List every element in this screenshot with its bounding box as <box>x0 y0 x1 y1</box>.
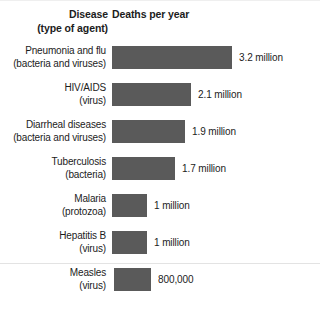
bar <box>114 268 151 291</box>
column-header-disease: Disease (type of agent) <box>0 8 108 35</box>
bar-value-label: 1.7 million <box>182 163 226 175</box>
disease-agent-type: (bacteria) <box>0 169 106 182</box>
disease-name: HIV/AIDS <box>0 82 106 95</box>
table-row: Tuberculosis(bacteria)1.7 million <box>0 156 320 193</box>
disease-label: Pneumonia and flu(bacteria and viruses) <box>0 45 106 70</box>
chart-header: Disease (type of agent) Deaths per year <box>0 8 320 42</box>
column-header-deaths-line1: Deaths per year <box>112 8 312 22</box>
bar <box>112 194 147 217</box>
disease-label: Malaria(protozoa) <box>0 193 106 218</box>
bar-value-label: 3.2 million <box>239 52 283 64</box>
top-edge-rule <box>0 0 320 1</box>
bar-value-label: 1.9 million <box>192 126 236 138</box>
disease-label: Measles(virus) <box>0 267 106 292</box>
bar-value-label: 1 million <box>154 237 190 249</box>
table-row: HIV/AIDS(virus)2.1 million <box>0 82 320 119</box>
disease-deaths-bar-chart: Disease (type of agent) Deaths per year … <box>0 0 320 313</box>
bar-and-value: 1 million <box>112 231 190 254</box>
section-divider-rule <box>0 263 320 264</box>
disease-agent-type: (protozoa) <box>0 206 106 219</box>
disease-name: Malaria <box>0 193 106 206</box>
disease-label: Hepatitis B(virus) <box>0 230 106 255</box>
bar <box>112 231 147 254</box>
bar <box>112 120 185 143</box>
bar-and-value: 2.1 million <box>112 83 242 106</box>
disease-agent-type: (bacteria and viruses) <box>0 58 106 71</box>
bar-and-value: 800,000 <box>114 268 193 291</box>
disease-label: HIV/AIDS(virus) <box>0 82 106 107</box>
disease-name: Measles <box>0 267 106 280</box>
disease-label: Diarrheal diseases(bacteria and viruses) <box>0 119 106 144</box>
table-row: Pneumonia and flu(bacteria and viruses)3… <box>0 45 320 82</box>
column-header-deaths: Deaths per year <box>112 8 312 22</box>
disease-agent-type: (virus) <box>0 243 106 256</box>
bar <box>112 83 191 106</box>
bar <box>112 46 232 69</box>
table-row: Malaria(protozoa)1 million <box>0 193 320 230</box>
disease-name: Tuberculosis <box>0 156 106 169</box>
bar-and-value: 1.9 million <box>112 120 236 143</box>
column-header-disease-line2: (type of agent) <box>0 22 108 36</box>
bar-rows: Pneumonia and flu(bacteria and viruses)3… <box>0 45 320 304</box>
disease-agent-type: (virus) <box>0 280 106 293</box>
bar-value-label: 2.1 million <box>198 89 242 101</box>
table-row: Hepatitis B(virus)1 million <box>0 230 320 267</box>
disease-agent-type: (virus) <box>0 95 106 108</box>
table-row: Measles(virus)800,000 <box>0 267 320 304</box>
disease-agent-type: (bacteria and viruses) <box>0 132 106 145</box>
column-header-disease-line1: Disease <box>0 8 108 22</box>
bar-and-value: 1 million <box>112 194 190 217</box>
disease-name: Pneumonia and flu <box>0 45 106 58</box>
bar-value-label: 1 million <box>154 200 190 212</box>
disease-name: Hepatitis B <box>0 230 106 243</box>
bar-and-value: 3.2 million <box>112 46 283 69</box>
bar <box>112 157 175 180</box>
disease-name: Diarrheal diseases <box>0 119 106 132</box>
table-row: Diarrheal diseases(bacteria and viruses)… <box>0 119 320 156</box>
disease-label: Tuberculosis(bacteria) <box>0 156 106 181</box>
bar-value-label: 800,000 <box>158 274 193 286</box>
bar-and-value: 1.7 million <box>112 157 226 180</box>
